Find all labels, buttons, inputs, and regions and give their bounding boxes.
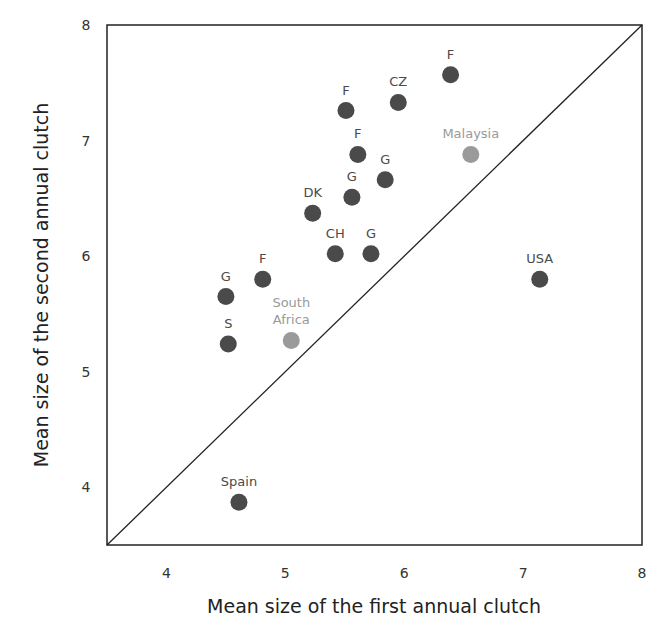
- data-point: F: [254, 251, 271, 288]
- y-tick-label: 6: [82, 248, 91, 264]
- x-tick-label: 5: [281, 565, 290, 581]
- point-label: G: [347, 169, 357, 184]
- point-label: F: [259, 251, 266, 266]
- x-axis-ticks: 45678: [162, 565, 646, 581]
- point-marker: [531, 271, 548, 288]
- point-marker: [377, 171, 394, 188]
- data-point: G: [362, 226, 379, 262]
- point-label: G: [221, 269, 231, 284]
- identity-line: [107, 25, 642, 545]
- data-point: G: [217, 269, 234, 306]
- data-point: F: [349, 126, 366, 163]
- y-tick-label: 5: [82, 364, 91, 380]
- x-tick-label: 4: [162, 565, 171, 581]
- point-marker: [230, 494, 247, 511]
- y-tick-label: 7: [82, 133, 91, 149]
- data-point: G: [377, 152, 394, 189]
- point-marker: [337, 102, 354, 119]
- data-point: F: [442, 47, 459, 84]
- point-label: Malaysia: [442, 126, 499, 141]
- point-label: F: [354, 126, 361, 141]
- data-point: S: [220, 316, 237, 353]
- point-marker: [442, 66, 459, 83]
- data-point: CH: [326, 226, 345, 262]
- x-tick-label: 6: [400, 565, 409, 581]
- point-label: DK: [303, 185, 322, 200]
- data-point: DK: [303, 185, 322, 222]
- point-marker: [220, 335, 237, 352]
- data-point: F: [337, 83, 354, 120]
- point-marker: [349, 146, 366, 163]
- point-label: Spain: [221, 474, 257, 489]
- y-axis-ticks: 45678: [82, 17, 91, 495]
- data-point: SouthAfrica: [272, 295, 310, 349]
- point-marker: [304, 205, 321, 222]
- y-axis-title: Mean size of the second annual clutch: [30, 103, 52, 468]
- data-point: CZ: [389, 74, 407, 111]
- data-point: USA: [526, 251, 553, 288]
- scatter-chart: 45678 45678 FCZFFGGDKCHGFGSSouthAfricaMa…: [0, 0, 662, 629]
- point-label: G: [380, 152, 390, 167]
- point-label: CZ: [389, 74, 407, 89]
- data-point: Spain: [221, 474, 257, 511]
- point-label: S: [224, 316, 232, 331]
- diagonal-line: [107, 25, 642, 545]
- point-label: South: [272, 295, 310, 310]
- x-tick-label: 7: [519, 565, 528, 581]
- x-axis-title: Mean size of the first annual clutch: [207, 595, 541, 617]
- point-marker: [390, 94, 407, 111]
- point-label: F: [342, 83, 349, 98]
- data-points: FCZFFGGDKCHGFGSSouthAfricaMalaysiaUSASpa…: [217, 47, 553, 511]
- point-marker: [327, 245, 344, 262]
- point-marker: [462, 146, 479, 163]
- data-point: G: [343, 169, 360, 206]
- point-label: F: [447, 47, 454, 62]
- point-marker: [283, 332, 300, 349]
- y-tick-label: 8: [82, 17, 91, 33]
- x-tick-label: 8: [638, 565, 647, 581]
- point-marker: [362, 245, 379, 262]
- point-marker: [343, 189, 360, 206]
- y-tick-label: 4: [82, 479, 91, 495]
- data-point: Malaysia: [442, 126, 499, 163]
- point-label: CH: [326, 226, 345, 241]
- point-label: Africa: [273, 312, 310, 327]
- point-marker: [217, 288, 234, 305]
- point-marker: [254, 271, 271, 288]
- point-label: USA: [526, 251, 553, 266]
- point-label: G: [366, 226, 376, 241]
